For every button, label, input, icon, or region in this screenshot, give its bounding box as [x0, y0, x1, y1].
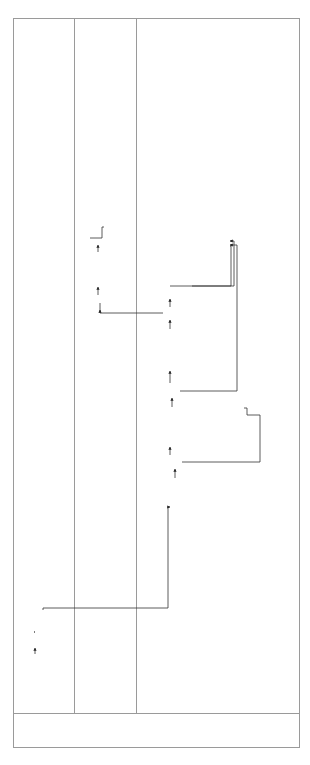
bpmn-diagram	[0, 0, 310, 765]
sequence-flows	[0, 0, 310, 765]
